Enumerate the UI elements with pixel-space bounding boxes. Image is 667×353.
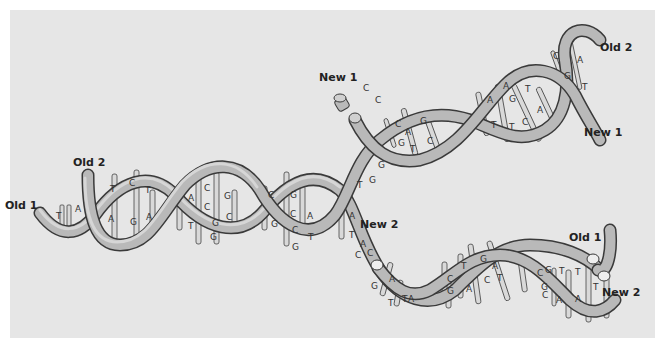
base-letter: G [378,160,385,170]
base-letter: G [290,190,297,200]
base-letter: G [545,265,552,275]
base-letter: A [108,214,115,224]
base-letter: C [395,119,401,129]
base-letter: C [226,212,232,222]
base-letter: A [349,211,356,221]
base-letter: T [144,185,151,195]
base-letter: T [187,221,194,231]
base-letter: T [348,230,355,240]
base-letter: A [466,284,473,294]
base-letter: G [398,138,405,148]
base-letter: C [537,268,543,278]
base-letter: C [268,190,274,200]
base-letter: C [290,209,296,219]
base-letter: T [401,294,408,304]
base-letter: A [405,127,412,137]
base-letter: T [524,84,531,94]
base-letter: A [389,274,396,284]
base-letter: T [490,120,497,130]
dna-replication-diagram: Old 1 Old 2 New 1 New 1 Old 2 New 2 Old … [0,0,667,353]
label-old-2-left: Old 2 [73,156,105,169]
base-letter: A [492,261,499,271]
base-letter: A [575,294,582,304]
base-letter: C [129,178,135,188]
base-letter: G [271,219,278,229]
base-letter: C [484,275,490,285]
strand-labels: Old 1 Old 2 New 1 New 1 Old 2 New 2 Old … [5,41,640,299]
base-letter: T [55,211,62,221]
old-strand-2 [85,30,600,245]
base-letter: T [356,180,363,190]
base-letter: G [130,217,137,227]
base-letter: T [409,144,416,154]
label-new-2-right: New 2 [602,286,640,299]
base-letter: C [204,202,210,212]
label-new-2-middle: New 2 [360,218,398,231]
base-letter: T [460,261,467,271]
base-letter: A [307,211,314,221]
base-letter: T [558,266,565,276]
base-letter: T [508,122,515,132]
label-old-1-left: Old 1 [5,199,37,212]
base-letter: C [204,183,210,193]
base-letter: T [307,232,314,242]
base-letter: C [363,83,369,93]
base-letter: G [292,242,299,252]
label-old-2-right: Old 2 [600,41,632,54]
base-letter: G [369,175,376,185]
label-new-1-right: New 1 [584,126,622,139]
label-new-1-top: New 1 [319,71,357,84]
base-letter: T [581,82,588,92]
base-letter: T [592,282,599,292]
base-letter: G [212,218,219,228]
base-letter: A [360,239,367,249]
base-letter: A [537,105,544,115]
base-letter: C [542,290,548,300]
base-letter: A [408,294,415,304]
label-old-1-right: Old 1 [569,231,601,244]
base-letter: T [496,273,503,283]
base-letter: C [447,274,453,284]
base-letter: G [371,281,378,291]
base-letter: A [503,81,510,91]
base-letter: G [564,71,571,81]
base-letter: A [556,295,563,305]
base-letter: G [480,254,487,264]
base-letter: C [375,95,381,105]
base-letter: C [292,225,298,235]
base-letter: G [210,232,217,242]
base-letter: A [487,95,494,105]
base-letter: C [553,51,559,61]
base-letter: A [75,204,82,214]
base-letter: C [427,136,433,146]
base-letter: C [367,248,373,258]
base-letter: A [577,55,584,65]
base-letter: A [146,212,153,222]
base-letter: G [224,191,231,201]
base-letter: G [447,286,454,296]
base-letter: A [188,193,195,203]
base-letter: G [509,94,516,104]
base-letter: T [574,267,581,277]
base-letter: T [109,184,116,194]
base-letter: T [387,298,394,308]
base-letter: C [355,250,361,260]
base-letter: C [522,117,528,127]
base-letter: G [420,116,427,126]
